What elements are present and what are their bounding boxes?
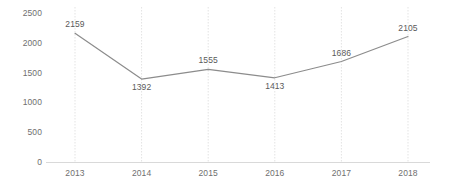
x-tick-2013: 2013 [53,168,97,178]
y-tick-1500: 1500 [4,68,42,78]
point-label-2015: 1555 [188,55,228,65]
y-tick-2500: 2500 [4,8,42,18]
line-chart: 05001000150020002500 2013201420152016201… [0,0,456,185]
point-label-2014: 1392 [122,82,162,92]
x-tick-2017: 2017 [319,168,363,178]
y-tick-1000: 1000 [4,97,42,107]
x-tick-2015: 2015 [186,168,230,178]
point-label-2017: 1686 [321,48,361,58]
point-label-2013: 2159 [55,19,95,29]
x-tick-2014: 2014 [120,168,164,178]
point-label-2018: 2105 [388,23,428,33]
x-tick-2018: 2018 [386,168,430,178]
point-label-2016: 1413 [255,81,295,91]
x-tick-2016: 2016 [253,168,297,178]
y-tick-500: 500 [4,127,42,137]
y-tick-2000: 2000 [4,38,42,48]
y-tick-0: 0 [4,157,42,167]
